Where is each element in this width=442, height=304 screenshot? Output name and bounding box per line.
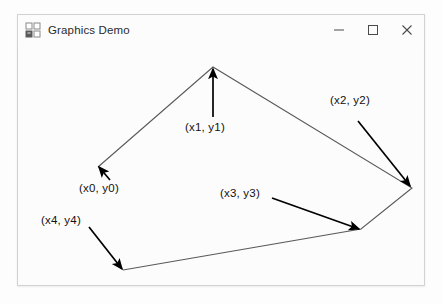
point-label-a0: (x0, y0) (79, 182, 119, 194)
vector-drawing-layer (19, 45, 423, 284)
annotation-arrow-a2 (358, 121, 410, 186)
window-title: Graphics Demo (48, 24, 322, 36)
app-window-grid-icon (25, 22, 41, 38)
annotation-arrow-a0 (99, 167, 110, 180)
close-button[interactable] (390, 16, 424, 45)
maximize-button[interactable] (356, 16, 390, 45)
minimize-button[interactable] (322, 16, 356, 45)
minimize-icon (333, 24, 345, 36)
screenshot-root: Graphics Demo (0, 0, 442, 304)
annotation-arrow-a4 (89, 227, 122, 269)
point-label-a3: (x3, y3) (220, 187, 260, 199)
graphics-canvas: (x0, y0)(x1, y1)(x2, y2)(x3, y3)(x4, y4) (19, 45, 423, 284)
point-label-a4: (x4, y4) (41, 214, 81, 226)
annotation-arrow-a3 (272, 198, 359, 229)
title-bar: Graphics Demo (18, 15, 424, 45)
point-label-a1: (x1, y1) (185, 121, 225, 133)
point-label-a2: (x2, y2) (330, 94, 370, 106)
app-window: Graphics Demo (17, 14, 425, 286)
close-icon (401, 24, 413, 36)
maximize-icon (367, 24, 379, 36)
